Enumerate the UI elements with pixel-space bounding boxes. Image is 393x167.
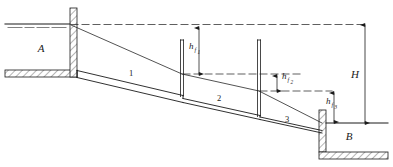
label-reservoir-b: B — [346, 130, 353, 142]
pipe-segment-3 — [260, 117, 322, 133]
datum-lines — [71, 25, 366, 92]
label-pipe-segment-1: 1 — [129, 68, 133, 78]
label-hf3-index: 3 — [335, 104, 338, 110]
hydraulics-figure: A B H 1 2 3 h f 1 h f 2 h f 3 — [0, 0, 393, 167]
label-total-head: H — [350, 68, 360, 80]
reservoir-b — [319, 110, 388, 159]
pipeline-schematic-svg: A B H 1 2 3 h f 1 h f 2 h f 3 — [0, 0, 393, 167]
label-pipe-segment-2: 2 — [217, 93, 221, 103]
label-head-loss-2: h f 2 — [282, 71, 294, 85]
standpipe-2 — [258, 40, 261, 117]
label-hf1-index: 1 — [198, 49, 201, 55]
reservoir-b-floor — [319, 152, 388, 159]
reservoir-a-wall — [70, 8, 77, 77]
pipe-segment-2 — [183, 99, 260, 120]
reservoir-b-wall — [319, 110, 326, 152]
label-hf2-h: h — [282, 71, 287, 81]
label-hf1-h: h — [189, 41, 194, 51]
label-hf2-index: 2 — [291, 79, 294, 85]
label-reservoir-a: A — [37, 42, 45, 54]
label-pipe-segment-3: 3 — [285, 114, 289, 124]
label-head-loss-3: h f 3 — [326, 96, 338, 110]
label-hf3-h: h — [326, 96, 331, 106]
reservoir-a-floor — [5, 70, 77, 77]
standpipe-1 — [181, 40, 184, 97]
